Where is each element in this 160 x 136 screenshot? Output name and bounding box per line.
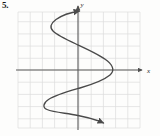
x-axis-label: x <box>146 67 151 75</box>
y-axis-label: y <box>80 1 85 9</box>
graph-figure: 5. <box>0 0 160 136</box>
coordinate-plane: x y <box>0 0 160 136</box>
x-axis: x <box>16 67 151 75</box>
